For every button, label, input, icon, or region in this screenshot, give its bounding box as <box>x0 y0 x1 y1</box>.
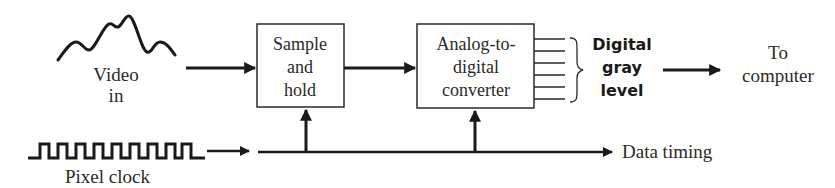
digital-label-line-1: Digital <box>592 35 652 54</box>
square-wave-icon <box>28 144 205 158</box>
adc-label-line-1: Analog-to- <box>437 34 516 54</box>
analog-waveform-icon <box>58 16 175 60</box>
sample-hold-label-line-1: Sample <box>273 34 327 54</box>
video-in-label: Video in <box>93 64 138 106</box>
sample-hold-label-line-2: and <box>287 57 313 77</box>
adc-output-bus <box>534 39 565 99</box>
adc-label-line-2: digital <box>453 57 499 77</box>
digital-label-line-2: gray <box>602 58 643 77</box>
video-label-line-2: in <box>109 85 124 106</box>
block-diagram: Video in Sample and hold Analog-to- digi… <box>0 0 835 188</box>
to-computer-label: To computer <box>742 42 814 86</box>
curly-brace-icon <box>570 38 583 102</box>
sample-hold-label-line-3: hold <box>284 80 316 100</box>
adc-block: Analog-to- digital converter <box>417 24 534 108</box>
sample-hold-block: Sample and hold <box>257 24 344 107</box>
video-label-line-1: Video <box>93 64 138 85</box>
digital-label-line-3: level <box>600 81 643 100</box>
adc-label-line-3: converter <box>442 80 510 100</box>
digital-gray-level-label: Digital gray level <box>592 35 652 100</box>
pixel-clock-label: Pixel clock <box>65 166 150 187</box>
computer-label-line-1: To <box>768 42 788 63</box>
computer-label-line-2: computer <box>742 65 814 86</box>
data-timing-label: Data timing <box>622 141 713 162</box>
